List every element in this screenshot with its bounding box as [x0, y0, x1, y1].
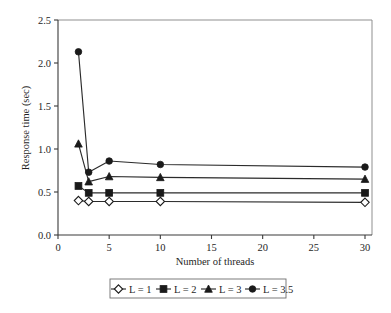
y-axis-title: Response time (sec): [20, 85, 32, 170]
data-point: [85, 169, 92, 176]
y-tick-label: 0.0: [38, 230, 51, 241]
x-tick-label: 0: [55, 242, 60, 253]
data-point: [157, 161, 164, 168]
data-point: [75, 49, 82, 56]
x-tick-label: 20: [257, 242, 268, 253]
legend-marker-icon: [249, 286, 256, 293]
data-point: [85, 189, 92, 196]
x-tick-label: 15: [206, 242, 217, 253]
legend-marker-icon: [160, 286, 167, 293]
y-tick-label: 2.5: [38, 15, 51, 26]
data-point: [157, 189, 164, 196]
x-tick-label: 30: [360, 242, 371, 253]
chart-legend: L = 1L = 2L = 3L = 3.5: [110, 279, 293, 298]
x-tick-label: 10: [155, 242, 166, 253]
y-tick-label: 1.5: [38, 101, 51, 112]
chart-figure: 0.00.51.01.52.02.5 051015202530 Number o…: [0, 0, 391, 313]
data-point: [106, 189, 113, 196]
legend-item-label: L = 2: [174, 284, 196, 295]
x-tick-label: 25: [309, 242, 320, 253]
y-tick-label: 0.5: [38, 187, 51, 198]
data-point: [106, 158, 113, 165]
legend-item-label: L = 3: [219, 284, 241, 295]
data-point: [362, 189, 369, 196]
response-time-line-chart: 0.00.51.01.52.02.5 051015202530 Number o…: [0, 0, 391, 313]
legend-item-label: L = 1: [129, 284, 151, 295]
y-tick-label: 2.0: [38, 58, 51, 69]
y-tick-label: 1.0: [38, 144, 51, 155]
x-tick-label: 5: [107, 242, 112, 253]
data-point: [75, 183, 82, 190]
legend-item-label: L = 3.5: [263, 284, 293, 295]
x-axis-title: Number of threads: [176, 256, 255, 267]
data-point: [362, 164, 369, 171]
